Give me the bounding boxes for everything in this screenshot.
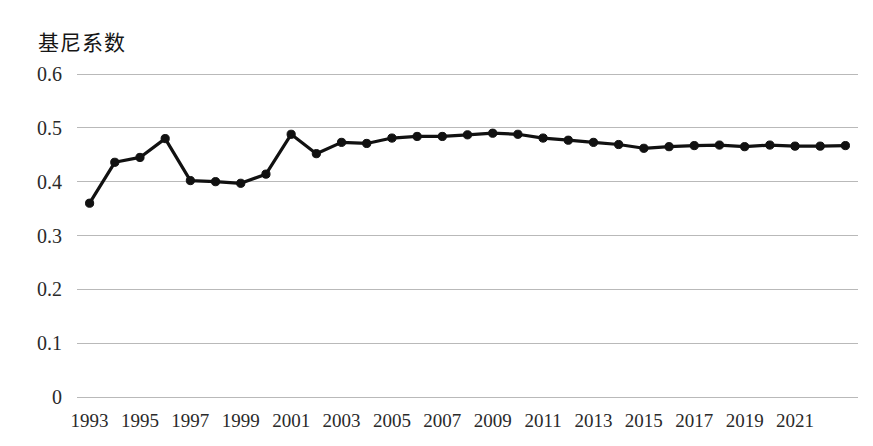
y-tick-label: 0.3 xyxy=(37,225,62,247)
data-point-marker xyxy=(841,142,849,150)
data-point-marker xyxy=(489,129,497,137)
x-tick-label: 2009 xyxy=(474,410,512,431)
data-point-marker xyxy=(136,153,144,161)
y-tick-label: 0.1 xyxy=(37,332,62,354)
y-tick-label: 0.6 xyxy=(37,63,62,85)
y-tick-label: 0.2 xyxy=(37,278,62,300)
x-axis-tick-labels: 1993199519971999200120032005200720092011… xyxy=(71,410,814,431)
y-tick-label: 0 xyxy=(52,386,62,408)
x-tick-label: 2005 xyxy=(373,410,411,431)
x-tick-label: 2013 xyxy=(574,410,612,431)
data-point-marker xyxy=(791,142,799,150)
data-point-marker xyxy=(715,141,723,149)
x-tick-label: 2001 xyxy=(272,410,310,431)
data-point-marker xyxy=(388,134,396,142)
data-point-marker xyxy=(337,138,345,146)
data-point-marker xyxy=(463,131,471,139)
y-tick-label: 0.4 xyxy=(37,171,62,193)
data-point-marker xyxy=(86,199,94,207)
data-point-marker xyxy=(363,139,371,147)
data-point-marker xyxy=(665,143,673,151)
data-point-marker xyxy=(640,144,648,152)
data-point-marker xyxy=(589,138,597,146)
data-point-marker xyxy=(816,142,824,150)
x-tick-label: 2021 xyxy=(776,410,814,431)
data-point-marker xyxy=(766,141,774,149)
y-tick-label: 0.5 xyxy=(37,117,62,139)
data-point-marker xyxy=(161,135,169,143)
data-point-marker xyxy=(312,150,320,158)
data-point-marker xyxy=(615,140,623,148)
x-tick-label: 1993 xyxy=(71,410,109,431)
data-point-marker xyxy=(438,132,446,140)
data-point-marker xyxy=(690,142,698,150)
data-point-marker xyxy=(237,179,245,187)
y-axis-tick-labels: 00.10.20.30.40.50.6 xyxy=(37,63,62,408)
x-tick-label: 2007 xyxy=(423,410,461,431)
chart-plot-area: 00.10.20.30.40.50.6 19931995199719992001… xyxy=(0,0,873,446)
x-tick-label: 2017 xyxy=(675,410,713,431)
data-point-marker xyxy=(514,130,522,138)
x-tick-label: 2019 xyxy=(726,410,764,431)
gini-series-markers xyxy=(86,129,850,207)
gini-series-line xyxy=(90,133,846,203)
data-point-marker xyxy=(262,170,270,178)
data-point-marker xyxy=(211,178,219,186)
data-point-marker xyxy=(741,143,749,151)
data-point-marker xyxy=(539,134,547,142)
gini-coefficient-chart: 基尼系数 00.10.20.30.40.50.6 199319951997199… xyxy=(0,0,873,446)
x-tick-label: 1999 xyxy=(222,410,260,431)
data-point-marker xyxy=(186,176,194,184)
data-point-marker xyxy=(287,130,295,138)
data-point-marker xyxy=(413,132,421,140)
data-point-marker xyxy=(564,136,572,144)
x-tick-label: 1995 xyxy=(121,410,159,431)
x-tick-label: 2015 xyxy=(625,410,663,431)
x-tick-label: 2003 xyxy=(323,410,361,431)
x-tick-label: 2011 xyxy=(524,410,561,431)
x-tick-label: 1997 xyxy=(171,410,209,431)
data-point-marker xyxy=(111,158,119,166)
gridlines-group xyxy=(77,74,858,397)
